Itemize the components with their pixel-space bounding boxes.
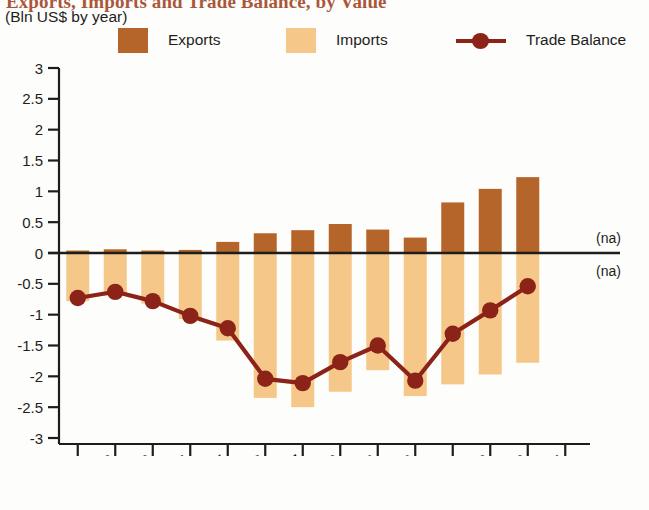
x-axis-tick-label: 2010 xyxy=(381,451,417,456)
y-axis-tick-label: 0 xyxy=(35,245,43,262)
y-axis-tick-label: 1.5 xyxy=(22,152,43,169)
y-axis-tick-label: 2 xyxy=(35,121,43,138)
na-label-above: (na) xyxy=(596,230,621,246)
y-axis-tick-label: 3 xyxy=(35,60,43,77)
trade-balance-marker xyxy=(70,290,86,306)
y-axis-tick-label: 0.5 xyxy=(22,214,43,231)
bar-exports xyxy=(291,230,314,253)
legend-swatch-exports-icon xyxy=(118,28,148,53)
bar-exports xyxy=(404,238,427,253)
legend-item-exports: Exports xyxy=(118,27,221,53)
bar-exports xyxy=(441,202,464,253)
trade-balance-marker xyxy=(445,326,461,342)
y-axis-tick-label: 1 xyxy=(35,183,43,200)
x-axis-tick-label: 2004 xyxy=(156,451,192,456)
x-axis-tick-label: 2001 xyxy=(44,451,80,456)
y-axis-tick-label: -2.5 xyxy=(17,399,43,416)
y-axis-tick-label: -1.5 xyxy=(17,337,43,354)
bar-imports xyxy=(329,253,352,392)
trade-balance-marker xyxy=(407,372,423,388)
y-axis-tick-label: -0.5 xyxy=(17,275,43,292)
trade-balance-marker xyxy=(107,284,123,300)
trade-balance-marker xyxy=(482,302,498,318)
y-axis-tick-label: 2.5 xyxy=(22,90,43,107)
legend-item-imports: Imports xyxy=(286,27,388,53)
x-axis-tick-label: 2013 xyxy=(494,451,530,456)
trade-balance-marker xyxy=(295,375,311,391)
trade-balance-marker xyxy=(332,354,348,370)
x-axis-tick-label: 2014 xyxy=(531,451,567,456)
legend-item-trade-balance: Trade Balance xyxy=(456,27,626,53)
bar-exports xyxy=(216,242,239,253)
bar-imports xyxy=(441,253,464,384)
x-axis-tick-label: 2006 xyxy=(231,451,267,456)
x-axis-tick-label: 2002 xyxy=(81,451,117,456)
bar-exports xyxy=(516,177,539,253)
chart-legend: Exports Imports Trade Balance xyxy=(118,27,643,53)
x-axis-tick-label: 2003 xyxy=(119,451,155,456)
chart-plot-area: 32.521.510.50-0.5-1-1.5-2-2.5-3 20012002… xyxy=(0,56,649,456)
na-annotations: (na)(na) xyxy=(596,230,621,279)
na-label-below: (na) xyxy=(596,263,621,279)
bar-exports xyxy=(254,233,277,253)
y-axis-tick-label: -2 xyxy=(30,368,43,385)
bar-exports xyxy=(329,224,352,253)
legend-swatch-imports-icon xyxy=(286,28,316,53)
y-axis-tick-label: -1 xyxy=(30,306,43,323)
chart-subtitle: (Bln US$ by year) xyxy=(5,8,127,26)
trade-balance-marker xyxy=(182,308,198,324)
bars-exports xyxy=(66,177,539,253)
x-axis-tick-label: 2012 xyxy=(456,451,492,456)
trade-balance-marker xyxy=(370,337,386,353)
chart-canvas: 32.521.510.50-0.5-1-1.5-2-2.5-3 20012002… xyxy=(0,56,649,456)
x-axis-tick-label: 2009 xyxy=(344,451,380,456)
x-axis: 2001200220032004200520062007200820092010… xyxy=(44,438,590,456)
x-axis-tick-label: 2005 xyxy=(194,451,230,456)
trade-balance-marker xyxy=(220,320,236,336)
trade-balance-marker xyxy=(257,371,273,387)
bar-exports xyxy=(479,189,502,253)
legend-label-exports: Exports xyxy=(168,31,221,49)
x-axis-tick-label: 2011 xyxy=(420,451,455,456)
trade-balance-marker xyxy=(520,278,536,294)
trade-balance-marker xyxy=(145,293,161,309)
bar-imports xyxy=(516,253,539,363)
x-axis-tick-label: 2007 xyxy=(269,451,305,456)
legend-label-imports: Imports xyxy=(336,31,388,49)
legend-line-marker-icon xyxy=(456,28,506,53)
legend-label-trade-balance: Trade Balance xyxy=(526,31,626,49)
x-axis-tick-label: 2008 xyxy=(306,451,342,456)
y-axis-tick-label: -3 xyxy=(30,430,43,447)
bar-exports xyxy=(366,230,389,253)
